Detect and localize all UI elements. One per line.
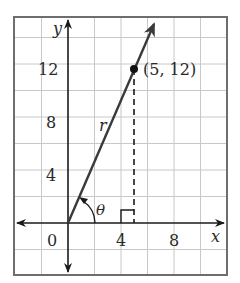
y-axis-label: y — [52, 19, 63, 38]
vector-label-r: r — [99, 116, 108, 135]
right-angle-marker — [121, 210, 134, 223]
y-tick-4: 4 — [46, 166, 56, 185]
coordinate-plane-diagram: y x 12 8 4 0 4 8 r θ (5, 12) — [0, 0, 240, 283]
y-tick-8: 8 — [46, 113, 56, 132]
angle-label-theta: θ — [96, 201, 105, 219]
x-tick-4: 4 — [116, 231, 126, 250]
x-tick-8: 8 — [169, 231, 179, 250]
point-5-12 — [130, 65, 138, 73]
vector-r — [68, 24, 154, 223]
angle-arc — [83, 201, 95, 223]
origin-label: 0 — [47, 231, 57, 250]
point-label: (5, 12) — [143, 60, 196, 79]
x-axis-label: x — [211, 227, 220, 246]
y-tick-12: 12 — [38, 60, 58, 79]
